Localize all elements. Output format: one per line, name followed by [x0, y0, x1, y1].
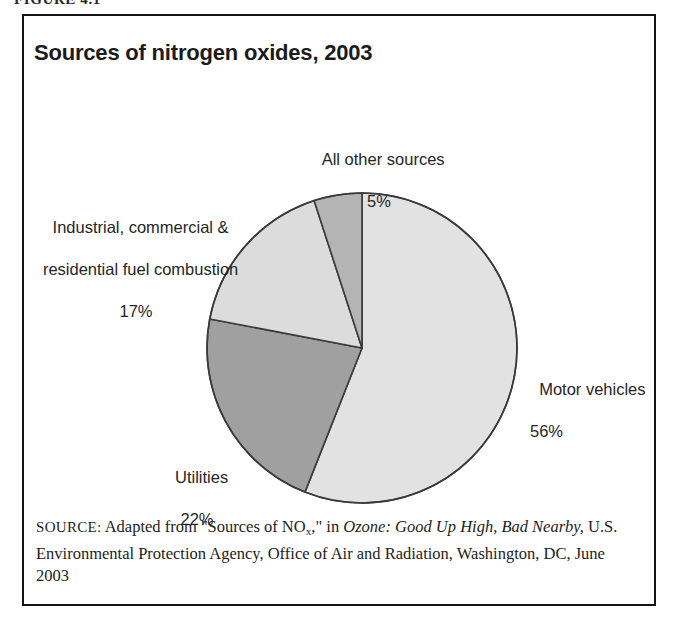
source-italic-title: Ozone: Good Up High, Bad Nearby, — [343, 517, 584, 536]
slice-label-percent: 17% — [28, 301, 244, 322]
source-text-before: Adapted from "Sources of NO — [101, 517, 305, 536]
slice-label-percent: 5% — [284, 191, 474, 212]
slice-label-text: Utilities — [175, 468, 228, 486]
slice-label-text: Motor vehicles — [539, 380, 645, 398]
figure-number-label: FIGURE 4.1 — [14, 0, 101, 8]
slice-label-text-line2: residential fuel combustion — [43, 260, 238, 278]
source-prefix: SOURCE: — [36, 519, 101, 535]
chart-title: Sources of nitrogen oxides, 2003 — [34, 40, 372, 66]
slice-label-percent: 56% — [530, 421, 680, 442]
slice-label-all-other-sources: All other sources 5% — [284, 128, 474, 233]
slice-label-industrial: Industrial, commercial & residential fue… — [28, 196, 244, 343]
slice-label-text: All other sources — [322, 150, 445, 168]
slice-label-motor-vehicles: Motor vehicles 56% — [530, 358, 680, 463]
source-text-mid: ," in — [311, 517, 343, 536]
slice-label-text-line1: Industrial, commercial & — [53, 218, 229, 236]
source-note: SOURCE: Adapted from "Sources of NOx," i… — [36, 516, 626, 588]
